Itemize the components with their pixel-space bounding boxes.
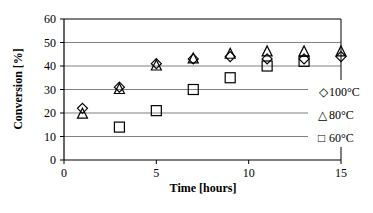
axes bbox=[60, 19, 341, 164]
square-marker-icon bbox=[114, 122, 124, 132]
y-tick-label: 30 bbox=[44, 83, 56, 97]
y-tick-label: 50 bbox=[44, 36, 56, 50]
triangle-marker-icon bbox=[225, 48, 235, 58]
legend-symbol-square-icon: □ bbox=[318, 131, 325, 145]
y-tick-label: 0 bbox=[50, 153, 56, 167]
y-axis-title: Conversion [%] bbox=[11, 48, 25, 130]
y-tick-label: 40 bbox=[44, 59, 56, 73]
legend-item-60c: □ 60°C bbox=[318, 131, 354, 145]
square-marker-icon bbox=[151, 106, 161, 116]
x-tick-label: 5 bbox=[153, 166, 159, 180]
legend-item-80c: △ 80°C bbox=[318, 108, 354, 122]
y-tick-label: 60 bbox=[44, 12, 56, 26]
x-axis-title: Time [hours] bbox=[170, 181, 237, 195]
legend: ◇ 100°C △ 80°C □ 60°C bbox=[318, 85, 360, 145]
y-axis-tick-labels: 0102030405060 bbox=[44, 12, 56, 167]
x-tick-label: 15 bbox=[335, 166, 347, 180]
y-tick-label: 10 bbox=[44, 130, 56, 144]
square-marker-icon bbox=[225, 73, 235, 83]
x-axis-tick-labels: 051015 bbox=[61, 166, 347, 180]
legend-symbol-triangle-icon: △ bbox=[318, 108, 328, 122]
legend-label: 60°C bbox=[329, 131, 354, 145]
legend-item-100c: ◇ 100°C bbox=[319, 85, 360, 99]
x-tick-label: 10 bbox=[243, 166, 255, 180]
conversion-vs-time-chart: 0102030405060 051015 Conversion [%] Time… bbox=[0, 0, 373, 213]
diamond-marker-icon bbox=[225, 52, 235, 62]
legend-label: 80°C bbox=[329, 108, 354, 122]
legend-label: 100°C bbox=[329, 85, 360, 99]
legend-symbol-diamond-icon: ◇ bbox=[319, 85, 329, 99]
x-tick-label: 0 bbox=[61, 166, 67, 180]
y-tick-label: 20 bbox=[44, 106, 56, 120]
gridlines bbox=[64, 19, 341, 137]
